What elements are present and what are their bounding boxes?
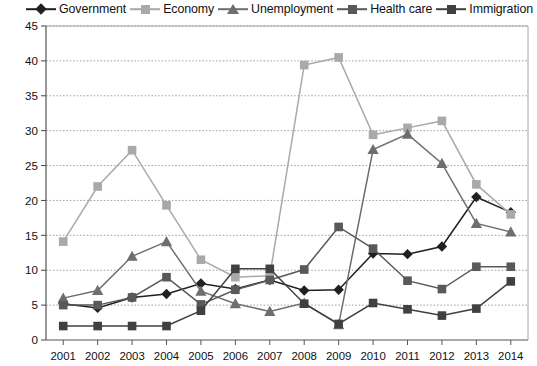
- legend-line-economy: [130, 3, 160, 15]
- legend-label-unemployment: Unemployment: [251, 2, 333, 16]
- legend-item-unemployment[interactable]: Unemployment: [218, 2, 333, 16]
- data-point-marker: [59, 301, 68, 310]
- x-tick-label: 2009: [326, 350, 351, 362]
- y-tick-label: 25: [25, 159, 38, 172]
- legend-label-health-care: Health care: [370, 2, 432, 16]
- legend-label-immigration: Immigration: [469, 2, 533, 16]
- data-point-marker: [506, 262, 515, 271]
- x-tick-label: 2004: [154, 350, 179, 362]
- x-tick-label: 2002: [85, 350, 110, 362]
- series-health-care: [59, 223, 515, 310]
- data-point-marker: [93, 322, 102, 331]
- legend-line-health-care: [337, 3, 367, 15]
- data-point-marker: [472, 180, 481, 189]
- data-point-marker: [59, 237, 68, 246]
- data-point-marker: [300, 61, 309, 70]
- data-point-marker: [300, 299, 309, 308]
- data-point-marker: [438, 311, 447, 320]
- data-point-marker: [128, 146, 137, 155]
- legend-item-government[interactable]: Government: [26, 2, 126, 16]
- data-point-marker: [471, 192, 481, 202]
- data-point-marker: [334, 53, 343, 62]
- y-tick-label: 15: [25, 229, 38, 242]
- data-point-marker: [197, 255, 206, 264]
- data-point-marker: [369, 131, 378, 140]
- data-point-marker: [161, 289, 171, 299]
- x-tick-label: 2003: [119, 350, 144, 362]
- y-tick-label: 45: [25, 19, 38, 32]
- data-point-marker: [93, 182, 102, 191]
- data-point-marker: [231, 265, 240, 274]
- data-point-marker: [334, 223, 343, 232]
- chart-legend: Government Economy Unemployment Health c…: [0, 0, 537, 18]
- x-tick-label: 2008: [292, 350, 317, 362]
- y-tick-label: 20: [25, 194, 38, 207]
- x-tick-label: 2010: [360, 350, 385, 362]
- legend-item-economy[interactable]: Economy: [130, 2, 214, 16]
- data-point-marker: [299, 285, 309, 295]
- legend-line-unemployment: [218, 3, 248, 15]
- legend-item-immigration[interactable]: Immigration: [436, 2, 533, 16]
- triangle-marker-icon: [227, 4, 239, 14]
- data-point-marker: [367, 144, 378, 154]
- data-point-marker: [195, 286, 206, 296]
- data-point-marker: [197, 306, 206, 315]
- data-point-marker: [438, 285, 447, 294]
- data-point-marker: [162, 201, 171, 210]
- data-point-marker: [93, 301, 102, 310]
- diamond-marker-icon: [35, 3, 46, 14]
- x-tick-label: 2014: [498, 350, 523, 362]
- plot-svg: 051015202530354045 200120022003200420052…: [0, 18, 537, 366]
- data-point-marker: [334, 320, 343, 329]
- axis-lines: [46, 26, 528, 340]
- data-point-marker: [231, 273, 240, 282]
- square-marker-icon: [141, 5, 150, 14]
- plot-area: 051015202530354045 200120022003200420052…: [0, 18, 537, 366]
- y-axis-ticks: 051015202530354045: [25, 19, 38, 346]
- y-tick-label: 10: [25, 263, 38, 276]
- data-point-marker: [471, 218, 482, 228]
- data-point-marker: [265, 265, 274, 274]
- data-point-marker: [300, 265, 309, 274]
- data-point-marker: [403, 276, 412, 285]
- y-tick-label: 35: [25, 89, 38, 102]
- x-tick-label: 2011: [395, 350, 420, 362]
- x-tick-label: 2013: [464, 350, 489, 362]
- data-point-marker: [506, 277, 515, 286]
- legend-label-government: Government: [59, 2, 126, 16]
- data-point-marker: [231, 285, 240, 294]
- data-series-group: [58, 53, 517, 330]
- y-tick-label: 5: [32, 298, 38, 311]
- y-tick-label: 30: [25, 124, 38, 137]
- series-government: [58, 192, 516, 313]
- square-marker-icon: [447, 5, 456, 14]
- legend-label-economy: Economy: [163, 2, 214, 16]
- data-point-marker: [230, 298, 241, 308]
- data-point-marker: [437, 241, 447, 251]
- data-point-marker: [369, 299, 378, 308]
- y-tick-label: 0: [32, 333, 38, 346]
- data-point-marker: [162, 322, 171, 331]
- x-tick-label: 2007: [257, 350, 282, 362]
- data-point-marker: [265, 276, 274, 285]
- data-point-marker: [128, 322, 137, 331]
- data-point-marker: [472, 262, 481, 271]
- legend-line-immigration: [436, 3, 466, 15]
- data-point-marker: [161, 236, 172, 246]
- data-point-marker: [402, 249, 412, 259]
- data-point-marker: [126, 251, 137, 261]
- x-tick-label: 2012: [429, 350, 454, 362]
- data-point-marker: [59, 322, 68, 331]
- data-point-marker: [438, 117, 447, 126]
- x-tick-label: 2006: [223, 350, 248, 362]
- x-tick-label: 2005: [188, 350, 213, 362]
- legend-item-health-care[interactable]: Health care: [337, 2, 432, 16]
- x-axis-ticks: 2001200220032004200520062007200820092010…: [51, 340, 524, 362]
- data-point-marker: [369, 244, 378, 253]
- data-point-marker: [128, 293, 137, 302]
- square-marker-icon: [348, 5, 357, 14]
- x-tick-label: 2001: [51, 350, 76, 362]
- data-point-marker: [472, 304, 481, 313]
- legend-line-government: [26, 3, 56, 15]
- data-point-marker: [506, 210, 515, 219]
